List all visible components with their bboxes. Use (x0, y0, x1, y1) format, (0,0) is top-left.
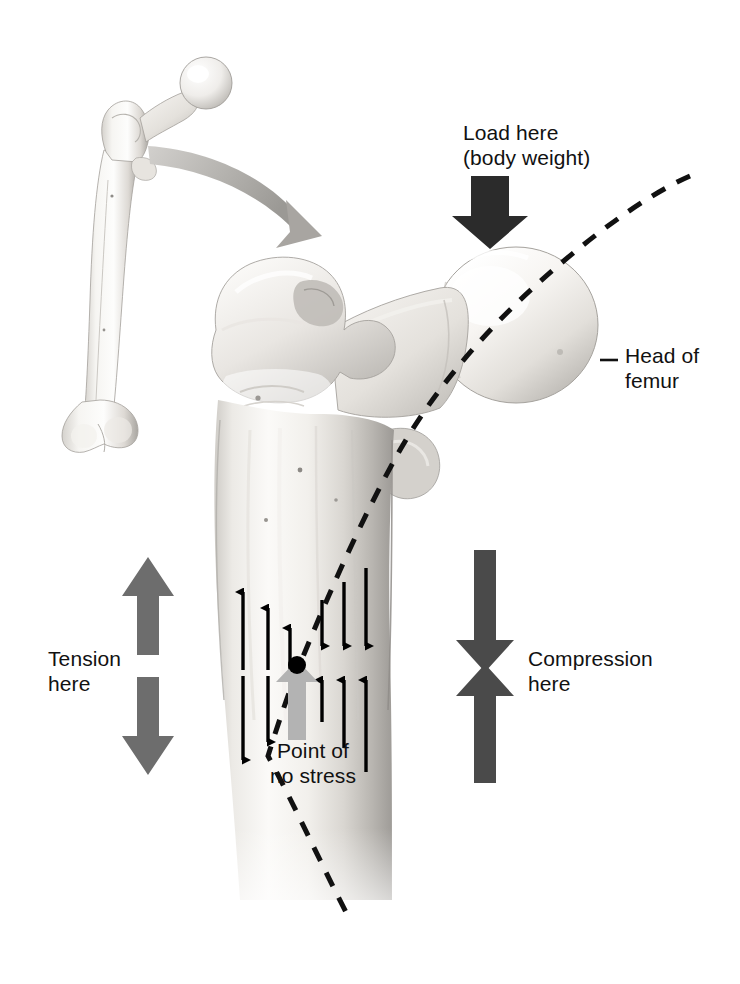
tension-label-line1: Tension (48, 646, 121, 671)
tension-label: Tension here (48, 646, 121, 696)
tension-arrow (122, 557, 174, 775)
figure-canvas: Load here (body weight) Head of femur Te… (0, 0, 740, 984)
load-label: Load here (body weight) (463, 120, 590, 170)
compression-arrow (456, 550, 514, 783)
load-arrow (452, 176, 528, 249)
point-of-no-stress-label: Point of no stress (248, 738, 378, 788)
inset-whole-femur (62, 57, 232, 452)
compression-label-line2: here (528, 671, 653, 696)
head-label-line2: femur (625, 368, 699, 393)
proximal-femur-illustration (190, 247, 598, 984)
tension-label-line2: here (48, 671, 121, 696)
load-label-line1: Load here (463, 120, 590, 145)
nostress-label-line1: Point of (248, 738, 378, 763)
zoom-pointer-arrow (148, 146, 322, 248)
compression-label-line1: Compression (528, 646, 653, 671)
compression-label: Compression here (528, 646, 653, 696)
head-label-line1: Head of (625, 343, 699, 368)
head-of-femur-label: Head of femur (625, 343, 699, 393)
illustration-layer (0, 0, 740, 984)
point-of-no-stress-marker (288, 656, 306, 674)
load-label-line2: (body weight) (463, 145, 590, 170)
nostress-label-line2: no stress (248, 763, 378, 788)
